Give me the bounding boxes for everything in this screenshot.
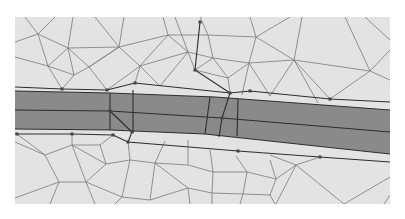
- mesh-node: [134, 82, 137, 85]
- mesh-node: [127, 141, 130, 144]
- mesh-node: [319, 156, 322, 159]
- mesh-node: [16, 133, 19, 136]
- mesh-node: [194, 69, 197, 72]
- mesh-node: [109, 110, 112, 113]
- mesh-canvas: [0, 0, 405, 219]
- mesh-node: [71, 133, 74, 136]
- mesh-node: [106, 89, 109, 92]
- mesh-node: [199, 21, 202, 24]
- mesh-node: [249, 90, 252, 93]
- mesh-node: [329, 98, 332, 101]
- mesh-node: [61, 88, 64, 91]
- mesh-node: [221, 117, 224, 120]
- mesh-node: [112, 134, 115, 137]
- mesh-node: [237, 150, 240, 153]
- mesh-node: [229, 92, 232, 95]
- mesh-diagram: [0, 0, 405, 219]
- mesh-node: [131, 131, 134, 134]
